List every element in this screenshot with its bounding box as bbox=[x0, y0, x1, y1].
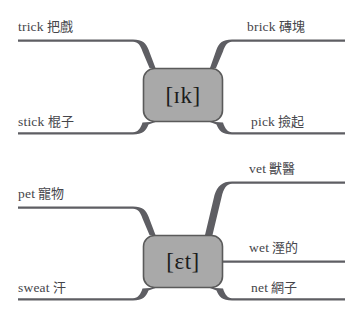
word-vet: vet bbox=[249, 161, 266, 176]
word-label-stick: stick棍子 bbox=[18, 115, 74, 129]
gloss-pick: 撿起 bbox=[278, 114, 304, 129]
branch-line-vet bbox=[205, 182, 345, 236]
branch-line-pet bbox=[18, 207, 156, 236]
word-label-pick: pick撿起 bbox=[251, 115, 304, 129]
word-label-net: net網子 bbox=[251, 281, 298, 295]
branch-line-trick bbox=[18, 40, 156, 69]
word-label-trick: trick把戲 bbox=[18, 20, 73, 34]
word-label-sweat: sweat汗 bbox=[18, 281, 66, 295]
word-pet: pet bbox=[18, 186, 35, 201]
gloss-vet: 獸醫 bbox=[269, 161, 295, 176]
gloss-pet: 寵物 bbox=[38, 186, 64, 201]
word-label-brick: brick磚塊 bbox=[247, 20, 305, 34]
rime-label-et: [ɛt] bbox=[166, 249, 199, 274]
word-net: net bbox=[251, 280, 268, 295]
word-brick: brick bbox=[247, 19, 276, 34]
word-trick: trick bbox=[18, 19, 44, 34]
rime-label-ik: [ɪk] bbox=[165, 83, 200, 108]
gloss-trick: 把戲 bbox=[47, 19, 73, 34]
branch-line-wet bbox=[222, 261, 345, 263]
word-pick: pick bbox=[251, 114, 275, 129]
gloss-stick: 棍子 bbox=[48, 114, 74, 129]
word-label-pet: pet寵物 bbox=[18, 187, 65, 201]
gloss-wet: 溼的 bbox=[272, 240, 298, 255]
branch-line-brick bbox=[210, 40, 345, 69]
gloss-net: 網子 bbox=[271, 280, 297, 295]
word-wet: wet bbox=[249, 240, 269, 255]
word-label-wet: wet溼的 bbox=[249, 241, 299, 255]
diagram-canvas: [ɪk] [ɛt] bbox=[0, 0, 359, 326]
word-stick: stick bbox=[18, 114, 45, 129]
rime-branching-diagram: [ɪk] [ɛt] trick把戲 brick磚塊 stick棍子 pick撿起… bbox=[0, 0, 359, 326]
word-label-vet: vet獸醫 bbox=[249, 162, 296, 176]
gloss-sweat: 汗 bbox=[53, 280, 66, 295]
gloss-brick: 磚塊 bbox=[279, 19, 305, 34]
word-sweat: sweat bbox=[18, 280, 50, 295]
